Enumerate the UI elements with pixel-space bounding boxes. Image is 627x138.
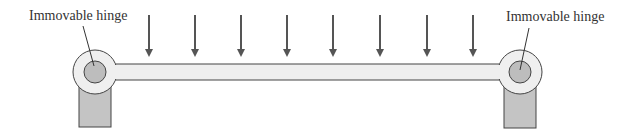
left-hinge-label: Immovable hinge <box>29 8 127 23</box>
right-hinge <box>494 50 542 94</box>
load-arrows <box>149 15 473 53</box>
beam <box>100 64 520 80</box>
right-hinge-pin <box>509 61 531 83</box>
left-hinge-pin <box>84 61 106 83</box>
left-hinge <box>73 50 122 94</box>
beam-diagram: Immovable hinge Immovable hinge <box>0 0 627 138</box>
right-hinge-label: Immovable hinge <box>506 9 604 24</box>
